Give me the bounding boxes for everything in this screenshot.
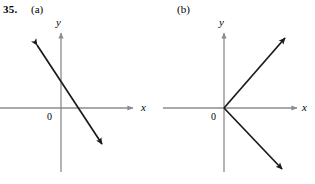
origin-label-b: 0 [211,112,216,122]
coordinate-plane-b [157,0,315,184]
figure-container: 35. (a) (b) y x 0 [0,0,315,184]
graph-panel-a: y x 0 [0,0,157,184]
plot-ray-lower-b [224,108,282,169]
plot-line-negative-slope-a [37,45,102,144]
x-axis-label-a: x [141,102,146,113]
plot-ray-upper-b [224,38,285,108]
coordinate-plane-a [0,0,157,184]
graph-panel-b: y x 0 [157,0,315,184]
y-axis-label-b: y [219,17,224,28]
x-axis-label-b: x [302,102,307,113]
y-axis-label-a: y [56,17,61,28]
origin-label-a: 0 [47,112,52,122]
